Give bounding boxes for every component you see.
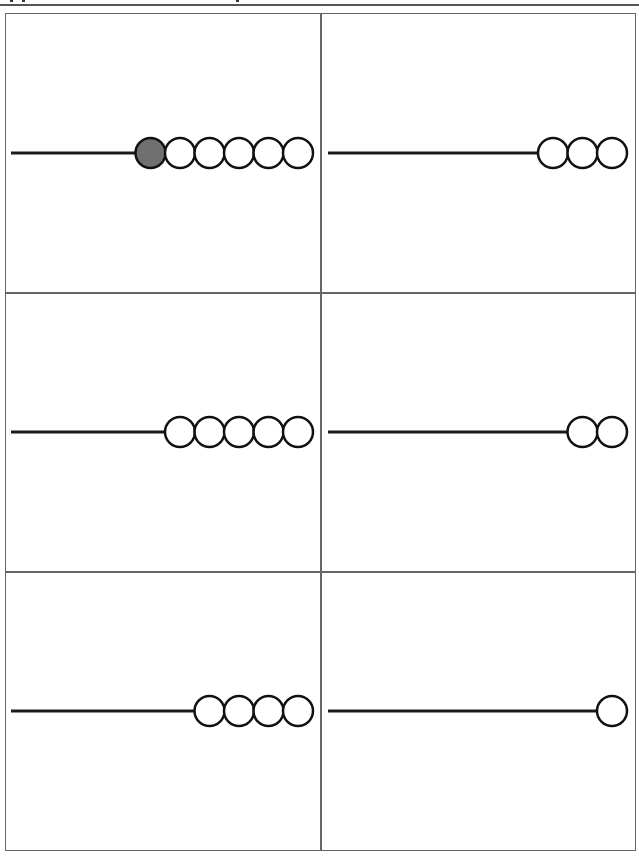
- bead-empty: [224, 696, 254, 726]
- bead-empty: [224, 138, 254, 168]
- bead-empty: [568, 417, 598, 447]
- bead-empty: [283, 696, 313, 726]
- bead-empty: [195, 138, 225, 168]
- bead-string-6: [328, 696, 627, 726]
- bead-empty: [254, 138, 284, 168]
- bead-empty: [283, 417, 313, 447]
- bead-string-2: [328, 138, 627, 168]
- bead-empty: [283, 138, 313, 168]
- bead-empty: [195, 417, 225, 447]
- bead-empty: [165, 138, 195, 168]
- bead-string-4: [328, 417, 627, 447]
- bead-empty: [597, 417, 627, 447]
- bead-string-3: [11, 417, 313, 447]
- bead-filled: [136, 138, 166, 168]
- bead-empty: [597, 696, 627, 726]
- bead-empty: [224, 417, 254, 447]
- bead-string-5: [11, 696, 313, 726]
- bead-string-1: [11, 138, 313, 168]
- bead-empty: [165, 417, 195, 447]
- bead-empty: [254, 696, 284, 726]
- bead-empty: [254, 417, 284, 447]
- bead-empty: [568, 138, 598, 168]
- bead-empty: [195, 696, 225, 726]
- bead-empty: [538, 138, 568, 168]
- bead-empty: [597, 138, 627, 168]
- bead-strings-canvas: [0, 0, 639, 856]
